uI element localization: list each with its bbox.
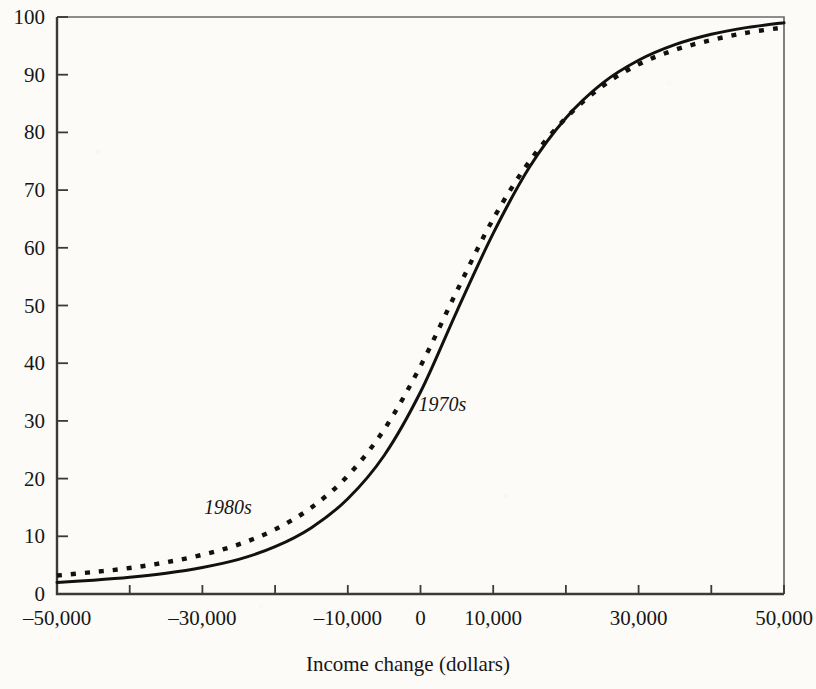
x-axis-ticks xyxy=(57,585,784,594)
plot-frame xyxy=(57,17,784,594)
data-series-group xyxy=(57,23,784,583)
axis-lines xyxy=(57,17,784,594)
plot-border-topright xyxy=(57,17,784,594)
x-axis-title: Income change (dollars) xyxy=(0,652,816,677)
y-tick-label: 40 xyxy=(24,351,45,376)
x-tick-label: –30,000 xyxy=(168,606,236,631)
y-tick-label: 90 xyxy=(24,62,45,87)
chart-figure: 0102030405060708090100 –50,000–30,000–10… xyxy=(0,0,816,689)
y-tick-label: 0 xyxy=(35,582,46,607)
y-tick-label: 100 xyxy=(14,5,46,30)
y-tick-label: 50 xyxy=(24,293,45,318)
y-tick-label: 30 xyxy=(24,408,45,433)
x-tick-label: 0 xyxy=(415,606,426,631)
y-tick-label: 80 xyxy=(24,120,45,145)
series-label-1970s: 1970s xyxy=(418,392,466,415)
x-tick-label: 10,000 xyxy=(464,606,522,631)
series-line-1970s xyxy=(57,23,784,583)
y-axis-ticks xyxy=(57,17,68,536)
series-label-1980s: 1980s xyxy=(204,496,252,519)
chart-plot-area xyxy=(0,0,816,689)
series-line-1980s xyxy=(57,27,784,575)
x-tick-label: 50,000 xyxy=(755,606,813,631)
y-tick-label: 10 xyxy=(24,524,45,549)
y-tick-label: 70 xyxy=(24,178,45,203)
x-tick-label: 30,000 xyxy=(610,606,668,631)
y-tick-label: 60 xyxy=(24,235,45,260)
x-tick-label: –50,000 xyxy=(23,606,91,631)
x-tick-label: –10,000 xyxy=(314,606,382,631)
y-tick-label: 20 xyxy=(24,466,45,491)
